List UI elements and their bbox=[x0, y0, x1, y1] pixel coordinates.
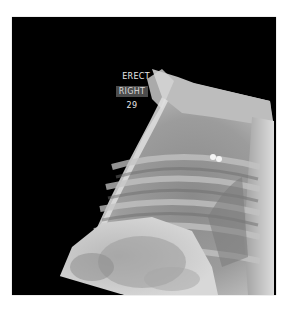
position-label: ERECT bbox=[116, 72, 156, 81]
side-marker-label: RIGHT bbox=[116, 86, 148, 97]
xray-image bbox=[12, 17, 276, 295]
xray-film: ERECT RIGHT 29 bbox=[12, 17, 276, 295]
image-number-label: 29 bbox=[116, 101, 148, 110]
